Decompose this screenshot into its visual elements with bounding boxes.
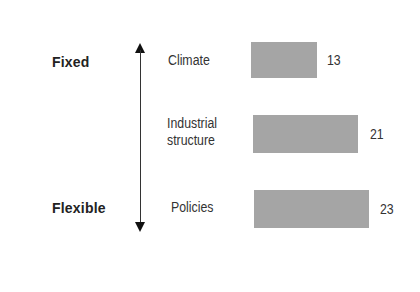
value-label: 13 [327, 52, 341, 68]
fixed-label: Fixed [52, 54, 90, 70]
flexible-label: Flexible [52, 200, 106, 216]
value-label: 21 [370, 126, 384, 142]
category-label: Climate [168, 52, 210, 69]
category-label: Policies [171, 199, 213, 216]
arrow-down-icon [135, 222, 145, 232]
category-label-line1: Industrial [167, 115, 217, 132]
category-label: Industrial structure [167, 115, 217, 149]
bar-industrial-structure [253, 115, 358, 153]
category-label-line2: structure [167, 132, 217, 149]
arrow-shaft [140, 50, 142, 225]
bar-policies [254, 190, 369, 228]
value-label: 23 [380, 201, 394, 217]
bar-climate [251, 42, 317, 78]
